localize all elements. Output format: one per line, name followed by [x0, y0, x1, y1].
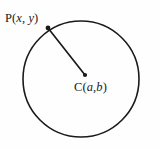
circle-geometry-figure: P(x, y) C(a,b) [0, 0, 159, 150]
center-point-label-close-paren: ) [103, 80, 107, 94]
point-p-dot [46, 26, 51, 31]
center-point-dot [83, 73, 87, 77]
point-p-label-letter: P [5, 11, 12, 25]
radius-segment-line [48, 28, 85, 75]
center-point-label: C(a,b) [74, 81, 107, 94]
point-p-label: P(x, y) [5, 12, 38, 25]
point-p-label-close-paren: ) [34, 11, 38, 25]
circle-outline [23, 21, 139, 137]
